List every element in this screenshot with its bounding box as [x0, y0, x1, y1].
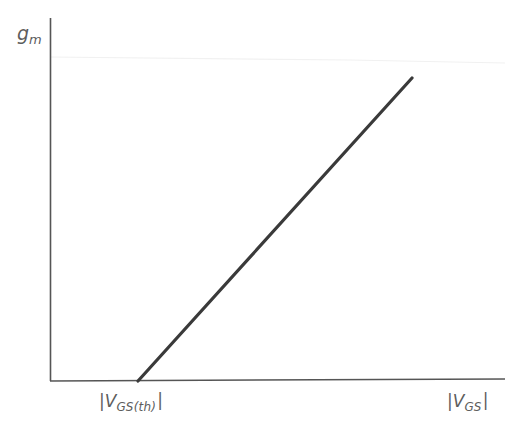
- threshold-symbol: V: [105, 391, 117, 411]
- x-axis-close-bar: |: [483, 390, 489, 410]
- y-axis-subscript: m: [29, 32, 42, 47]
- x-axis-line: [50, 379, 505, 381]
- y-axis-label: gm: [17, 24, 42, 46]
- x-axis-label: |VGS|: [447, 392, 488, 413]
- x-axis-subscript: GS: [464, 400, 481, 414]
- x-threshold-label: |VGS(th)|: [99, 392, 163, 413]
- transconductance-graph-figure: gm |VGS(th)| |VGS|: [0, 0, 525, 440]
- plot-area: [0, 0, 525, 440]
- threshold-subscript: GS(th): [116, 400, 156, 414]
- y-axis-symbol: g: [17, 22, 29, 44]
- x-axis-symbol: V: [453, 391, 465, 411]
- threshold-close-bar: |: [157, 390, 163, 410]
- scan-artifact-streak: [50, 57, 505, 63]
- transconductance-curve: [138, 78, 412, 381]
